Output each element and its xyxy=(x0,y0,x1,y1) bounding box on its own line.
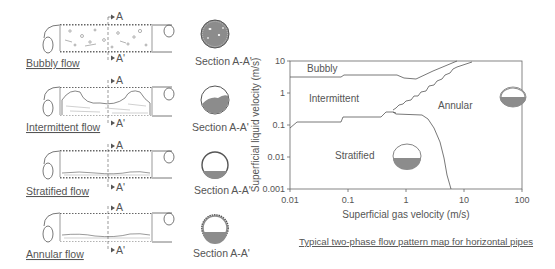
stratified-pipe-diagram: A A' Stratified flow Section A-A' xyxy=(26,139,251,197)
marker-a: A xyxy=(116,139,123,151)
x-tick: 10 xyxy=(459,195,469,205)
flow-pattern-figure: A A' Bubbly flow Section A-A' A A' Inter… xyxy=(0,0,555,269)
x-tick: 1 xyxy=(403,195,408,205)
y-axis-title: Superficial liquid velocity (m/s) xyxy=(250,58,261,193)
flow-pattern-map: 10 1 0.1 0.01 0.001 0.01 0.1 1 10 100 Su… xyxy=(250,56,533,247)
y-tick: 0.001 xyxy=(262,184,285,194)
marker-a: A xyxy=(116,74,123,86)
marker-a-prime: A' xyxy=(116,181,125,193)
y-tick: 0.01 xyxy=(267,152,285,162)
annular-flow-label: Annular flow xyxy=(26,248,84,260)
region-bubbly: Bubbly xyxy=(307,63,338,74)
region-annular: Annular xyxy=(438,100,473,111)
x-axis-title: Superficial gas velocity (m/s) xyxy=(342,209,469,220)
chart-caption: Typical two-phase flow pattern map for h… xyxy=(299,236,533,247)
region-stratified: Stratified xyxy=(335,150,374,161)
y-tick: 0.1 xyxy=(272,120,285,130)
bubbly-section-label: Section A-A' xyxy=(195,55,252,67)
bubbly-pipe-diagram: A A' Bubbly flow Section A-A' xyxy=(26,10,252,69)
region-intermittent: Intermittent xyxy=(309,93,359,104)
x-tick: 0.1 xyxy=(342,195,355,205)
bubbly-flow-label: Bubbly flow xyxy=(26,57,80,69)
y-tick: 10 xyxy=(275,56,285,66)
marker-a-prime: A' xyxy=(116,117,125,129)
stratified-flow-label: Stratified flow xyxy=(26,185,89,197)
annular-cross-section-icon xyxy=(500,87,526,107)
intermittent-flow-label: Intermittent flow xyxy=(26,121,101,133)
marker-a: A xyxy=(116,201,123,213)
intermittent-stratified-boundary xyxy=(290,112,396,128)
annular-section-label: Section A-A' xyxy=(193,247,250,259)
intermittent-section-label: Section A-A' xyxy=(192,121,249,133)
marker-a-prime: A' xyxy=(116,244,125,256)
stratified-section-label: Section A-A' xyxy=(194,184,251,196)
marker-a-prime: A' xyxy=(116,52,125,64)
stratified-cross-section-icon xyxy=(393,144,421,170)
marker-a: A xyxy=(116,10,123,22)
x-tick: 0.01 xyxy=(281,195,299,205)
x-tick: 100 xyxy=(514,195,529,205)
annular-pipe-diagram: A A' Annular flow Section A-A' xyxy=(26,201,250,260)
y-tick: 1 xyxy=(280,88,285,98)
intermittent-pipe-diagram: A A' Intermittent flow Section A-A' xyxy=(26,74,249,133)
